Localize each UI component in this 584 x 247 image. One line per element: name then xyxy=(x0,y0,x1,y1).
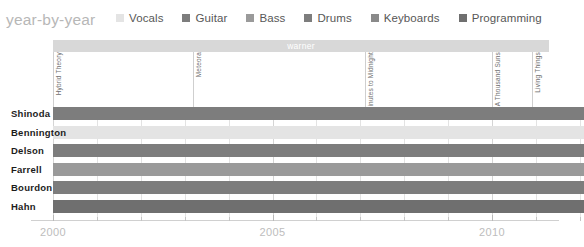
album-marker-line xyxy=(53,52,54,107)
member-rows: ShinodaBenningtonDelsonFarrellBourdonHah… xyxy=(0,107,575,219)
legend-item-bass[interactable]: Bass xyxy=(246,12,285,24)
legend-swatch-icon xyxy=(371,14,379,22)
member-role-bar xyxy=(53,163,584,176)
member-row-label: Bennington xyxy=(11,126,66,139)
legend-swatch-icon xyxy=(459,14,467,22)
x-axis-tick xyxy=(360,217,361,221)
x-axis-tick xyxy=(404,217,405,221)
x-axis-tick-label: 2010 xyxy=(479,226,505,238)
legend-swatch-icon xyxy=(182,14,190,22)
x-axis-tick xyxy=(229,217,230,221)
member-role-bar xyxy=(53,200,584,213)
x-axis-tick xyxy=(492,215,493,221)
album-label: Living Things xyxy=(534,52,541,93)
legend-item-drums[interactable]: Drums xyxy=(304,12,351,24)
album-label: A Thousand Suns xyxy=(494,52,501,106)
page-title: year-by-year xyxy=(6,11,95,29)
member-row-label: Hahn xyxy=(11,200,36,213)
album-label: Hybrid Theory xyxy=(55,52,62,95)
album-marker-line xyxy=(532,52,533,107)
album-label: Meteora xyxy=(195,52,202,77)
x-axis-tick xyxy=(97,217,98,221)
legend-item-programming[interactable]: Programming xyxy=(459,12,542,24)
member-row[interactable]: Bourdon xyxy=(0,181,575,194)
member-row[interactable]: Bennington xyxy=(0,126,575,139)
legend-swatch-icon xyxy=(246,14,254,22)
member-row-label: Bourdon xyxy=(11,181,52,194)
legend-item-keyboards[interactable]: Keyboards xyxy=(371,12,440,24)
chart-plot-area: warner Hybrid TheoryMeteoraMinutes to Mi… xyxy=(0,36,575,247)
album-marker-line xyxy=(365,52,366,107)
x-axis-line xyxy=(31,220,559,221)
x-axis-tick-label: 2000 xyxy=(40,226,66,238)
x-axis: 200020052010 xyxy=(0,220,575,247)
x-axis-tick xyxy=(580,217,581,221)
legend-item-guitar[interactable]: Guitar xyxy=(182,12,227,24)
x-axis-tick xyxy=(185,217,186,221)
member-row[interactable]: Hahn xyxy=(0,200,575,213)
legend-item-label: Programming xyxy=(472,12,542,24)
x-axis-tick xyxy=(141,217,142,221)
x-axis-tick-label: 2005 xyxy=(259,226,285,238)
chart-header: year-by-year VocalsGuitarBassDrumsKeyboa… xyxy=(0,0,575,36)
legend-swatch-icon xyxy=(304,14,312,22)
legend-swatch-icon xyxy=(116,14,124,22)
member-role-bar xyxy=(53,107,584,120)
x-axis-tick xyxy=(316,217,317,221)
member-role-bar xyxy=(53,181,584,194)
member-row-label: Delson xyxy=(11,144,44,157)
member-row-label: Shinoda xyxy=(11,107,50,120)
member-role-bar xyxy=(53,126,584,139)
member-row[interactable]: Shinoda xyxy=(0,107,575,120)
legend-item-label: Keyboards xyxy=(384,12,440,24)
x-axis-tick xyxy=(448,217,449,221)
member-role-bar xyxy=(53,144,584,157)
legend-item-label: Guitar xyxy=(195,12,227,24)
x-axis-tick xyxy=(536,217,537,221)
member-row[interactable]: Farrell xyxy=(0,163,575,176)
legend-item-label: Vocals xyxy=(129,12,163,24)
legend-item-vocals[interactable]: Vocals xyxy=(116,12,163,24)
album-marker-line xyxy=(492,52,493,107)
legend-item-label: Drums xyxy=(317,12,351,24)
x-axis-tick xyxy=(53,215,54,221)
era-band-label: warner xyxy=(53,40,549,52)
album-label: Minutes to Midnight xyxy=(367,52,374,112)
member-row[interactable]: Delson xyxy=(0,144,575,157)
legend-item-label: Bass xyxy=(259,12,285,24)
legend: VocalsGuitarBassDrumsKeyboardsProgrammin… xyxy=(116,12,561,24)
x-axis-tick xyxy=(273,215,274,221)
member-row-label: Farrell xyxy=(11,163,42,176)
